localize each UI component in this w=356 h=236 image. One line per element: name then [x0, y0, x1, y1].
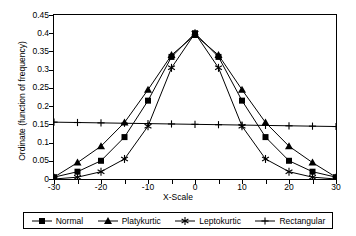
data-point-plus: [332, 123, 336, 130]
y-tick-label: 0.3: [8, 64, 49, 74]
x-tick-mark: [54, 180, 55, 184]
legend-label: Normal: [56, 216, 83, 226]
legend-key-asterisk-icon: [174, 216, 196, 226]
y-tick-label: 0.2: [8, 101, 49, 111]
y-tick-label: 0.05: [8, 155, 49, 165]
legend-label: Rectangular: [279, 216, 325, 226]
data-point-triangle: [144, 86, 152, 93]
legend-key-triangle-icon: [97, 216, 119, 226]
data-point-square: [286, 158, 292, 164]
x-tick-mark: [148, 180, 149, 184]
x-tick-mark: [313, 180, 314, 184]
data-point-plus: [309, 123, 316, 130]
y-tick-label: 0.35: [8, 46, 49, 56]
legend-key-square-icon: [31, 216, 53, 226]
plot-area: [53, 14, 337, 180]
data-point-plus: [262, 217, 269, 224]
series-platykurtic: [54, 31, 336, 179]
y-tick-label: 0.4: [8, 28, 49, 38]
x-tick-mark: [125, 180, 126, 184]
data-point-square: [122, 134, 128, 140]
data-point-plus: [168, 120, 175, 127]
x-axis-label: X-Scale: [0, 192, 356, 202]
plot-lines: [54, 15, 336, 179]
data-point-plus: [262, 122, 269, 129]
data-point-square: [239, 98, 245, 104]
x-tick-mark: [219, 180, 220, 184]
legend-key-plus-icon: [254, 216, 276, 226]
data-point-plus: [191, 121, 198, 128]
series-rectangular: [54, 119, 336, 131]
data-point-square: [39, 218, 45, 224]
legend-item-normal[interactable]: Normal: [31, 216, 83, 226]
data-point-square: [98, 158, 104, 164]
x-tick-mark: [242, 180, 243, 184]
data-point-asterisk: [286, 168, 293, 176]
data-point-triangle: [74, 159, 82, 166]
x-tick-mark: [266, 180, 267, 184]
x-tick-mark: [336, 180, 337, 184]
x-tick-mark: [78, 180, 79, 184]
data-point-plus: [54, 119, 58, 126]
x-tick-mark: [289, 180, 290, 184]
y-tick-label: 0.25: [8, 82, 49, 92]
data-point-triangle: [309, 159, 317, 166]
legend-label: Leptokurtic: [199, 216, 241, 226]
chart-figure: Ordinate (function of frequency) 00.050.…: [0, 0, 356, 236]
x-tick-mark: [101, 180, 102, 184]
x-tick-mark: [195, 180, 196, 184]
series-leptokurtic: [54, 29, 336, 179]
data-point-plus: [74, 119, 81, 126]
data-point-square: [145, 98, 151, 104]
chart-legend: NormalPlatykurticLeptokurticRectangular: [23, 212, 333, 229]
y-tick-label: 0.15: [8, 119, 49, 129]
series-normal: [54, 30, 336, 179]
legend-item-rectangular[interactable]: Rectangular: [254, 216, 325, 226]
data-point-plus: [215, 121, 222, 128]
data-point-asterisk: [98, 168, 105, 176]
data-point-plus: [285, 122, 292, 129]
data-point-plus: [97, 119, 104, 126]
y-tick-label: 0.1: [8, 137, 49, 147]
data-point-square: [263, 134, 269, 140]
legend-item-leptokurtic[interactable]: Leptokurtic: [174, 216, 241, 226]
x-tick-mark: [172, 180, 173, 184]
legend-item-platykurtic[interactable]: Platykurtic: [97, 216, 161, 226]
y-tick-label: 0.45: [8, 10, 49, 20]
legend-label: Platykurtic: [122, 216, 161, 226]
data-point-triangle: [238, 86, 246, 93]
